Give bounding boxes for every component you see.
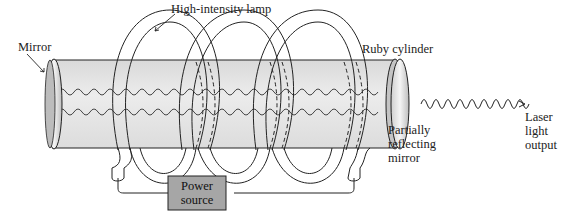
power-line-1: Power bbox=[168, 179, 226, 193]
partial-line-2: reflecting bbox=[388, 137, 436, 151]
mirror-left bbox=[45, 59, 62, 149]
laser-line-2: light bbox=[525, 124, 548, 138]
partial-line-1: Partially bbox=[388, 123, 430, 137]
laser-diagram bbox=[0, 0, 573, 211]
laser-line-3: output bbox=[525, 138, 557, 152]
lamp-label: High-intensity lamp bbox=[171, 2, 271, 16]
partial-line-3: mirror bbox=[388, 151, 420, 165]
ruby-cylinder bbox=[52, 60, 395, 148]
mirror-label: Mirror bbox=[18, 40, 51, 54]
laser-output-wave bbox=[421, 100, 529, 109]
laser-line-1: Laser bbox=[525, 110, 553, 124]
power-line-2: source bbox=[168, 193, 226, 207]
ruby-cylinder-label: Ruby cylinder bbox=[362, 42, 433, 56]
